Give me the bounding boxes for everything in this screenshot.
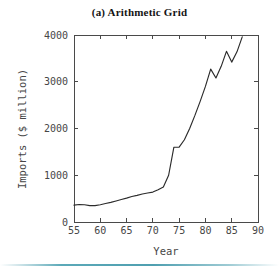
figure-canvas: (a) Arithmetic Grid 5560657075808590 010… <box>0 0 279 268</box>
y-tick-label: 2000 <box>44 123 68 134</box>
y-tick-label: 3000 <box>44 76 68 87</box>
y-axis-title: Imports ($ million) <box>16 69 28 189</box>
x-tick-label: 55 <box>68 225 80 236</box>
chart-plot: 5560657075808590 01000200030004000 Year … <box>0 0 279 268</box>
y-tick-label: 1000 <box>44 170 68 181</box>
y-axis-ticks <box>74 35 258 222</box>
y-tick-label: 4000 <box>44 30 68 41</box>
x-tick-label: 70 <box>147 225 159 236</box>
axis-frame <box>74 35 258 222</box>
footer-rule <box>0 264 279 266</box>
data-series-line <box>74 37 242 206</box>
x-axis-tick-labels: 5560657075808590 <box>68 225 264 236</box>
x-tick-label: 65 <box>121 225 133 236</box>
x-axis-ticks <box>74 35 258 222</box>
x-tick-label: 75 <box>173 225 185 236</box>
y-tick-label: 0 <box>62 217 68 228</box>
x-tick-label: 60 <box>94 225 106 236</box>
x-axis-title: Year <box>153 245 178 257</box>
y-axis-tick-labels: 01000200030004000 <box>44 30 68 228</box>
x-tick-label: 80 <box>199 225 211 236</box>
x-tick-label: 85 <box>226 225 238 236</box>
x-tick-label: 90 <box>252 225 264 236</box>
